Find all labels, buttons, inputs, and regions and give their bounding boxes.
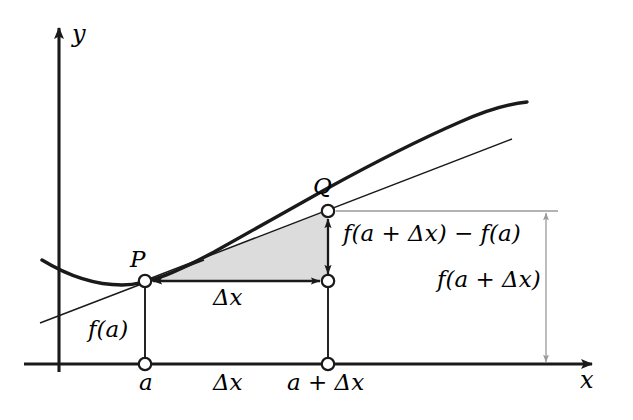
point-q-label: Q — [313, 175, 332, 198]
f-of-a-label: f(a) — [88, 318, 128, 341]
marker-point-q — [322, 205, 334, 217]
delta-x-midline-label: Δx — [213, 286, 243, 309]
marker-corner-point — [322, 275, 334, 287]
y-axis-label: y — [72, 22, 86, 46]
tick-a-plus-delta-x-label: a + Δx — [287, 371, 364, 394]
point-p-label: P — [130, 248, 145, 271]
f-of-a-plus-delta-x-label: f(a + Δx) — [437, 268, 541, 291]
x-axis-label: x — [580, 368, 594, 392]
tick-a-label: a — [139, 371, 153, 394]
diagram-canvas — [0, 0, 633, 420]
marker-point-p — [139, 275, 151, 287]
rise-difference-label: f(a + Δx) − f(a) — [343, 222, 521, 245]
derivative-diagram: y x P Q f(a) Δx Δx a a + Δx f(a + Δx) − … — [0, 0, 633, 420]
delta-x-axis-label: Δx — [213, 371, 243, 394]
